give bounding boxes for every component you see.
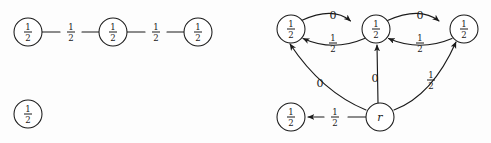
right-edge-R2-to-R3: [388, 13, 440, 21]
left-node-L4-label: 1 2: [24, 105, 32, 124]
right-node-R2-denominator: 2: [373, 30, 378, 39]
right-edge-r-to-R1: [290, 44, 366, 110]
right-node-R1-label: 1 2: [287, 20, 295, 39]
left-node-L3-denominator: 2: [195, 33, 200, 42]
left-node-L1-denominator: 2: [25, 33, 30, 42]
left-node-L2-denominator: 2: [110, 33, 115, 42]
left-edge-label-L1-L2-denominator: 2: [68, 33, 73, 42]
right-edge-R1-to-R2: [302, 13, 351, 21]
right-edge-label-r-to-R3-numerator: 1: [428, 71, 433, 80]
left-node-L3-numerator: 1: [195, 23, 200, 32]
left-edge-label-L1-L2-numerator: 1: [68, 23, 73, 32]
right-edge-label-r-to-R3: 1 2: [427, 71, 435, 90]
right-node-R4-numerator: 1: [288, 108, 293, 117]
left-node-L1-numerator: 1: [25, 23, 30, 32]
right-edge-label-R3-to-R2-denominator: 2: [417, 44, 422, 53]
right-node-R4-denominator: 2: [288, 118, 293, 127]
right-edge-label-r-to-R3-denominator: 2: [428, 81, 433, 90]
right-edge-label-r-to-R4-numerator: 1: [332, 108, 337, 117]
right-edge-label-r-to-R4: 1 2: [331, 108, 339, 127]
left-node-L2-numerator: 1: [110, 23, 115, 32]
left-node-L3-label: 1 2: [194, 23, 202, 42]
left-node-L4-denominator: 2: [25, 115, 30, 124]
right-edge-label-r-to-R2: 0: [372, 73, 379, 84]
left-node-L2-label: 1 2: [109, 23, 117, 42]
markov-chain-figure: 1 2 1 2 1 2 1 2 1 2 1 2 1 2 1 2 1: [0, 0, 491, 143]
right-node-R4-label: 1 2: [287, 108, 295, 127]
right-node-R2-label: 1 2: [372, 20, 380, 39]
left-node-L1-label: 1 2: [24, 23, 32, 42]
right-node-root-label: r: [377, 112, 382, 123]
left-edge-label-L1-L2: 1 2: [67, 23, 75, 42]
right-node-R3-denominator: 2: [461, 30, 466, 39]
right-edge-label-r-to-R1: 0: [317, 78, 324, 89]
right-edge-label-R2-to-R3: 0: [417, 10, 424, 21]
left-node-L4-numerator: 1: [25, 105, 30, 114]
right-edge-label-R3-to-R2: 1 2: [416, 34, 424, 53]
right-edge-r-to-R3: [394, 42, 456, 110]
right-edge-label-R2-to-R1-denominator: 2: [330, 44, 335, 53]
right-edge-label-r-to-R4-denominator: 2: [332, 118, 337, 127]
right-node-R3-label: 1 2: [460, 20, 468, 39]
left-edge-label-L2-L3: 1 2: [152, 23, 160, 42]
right-node-R1-denominator: 2: [288, 30, 293, 39]
right-node-R3-numerator: 1: [461, 20, 466, 29]
right-edge-label-R2-to-R1-numerator: 1: [330, 34, 335, 43]
right-edge-label-R2-to-R1: 1 2: [329, 34, 337, 53]
left-edge-label-L2-L3-denominator: 2: [153, 33, 158, 42]
right-node-R1-numerator: 1: [288, 20, 293, 29]
right-edge-label-R3-to-R2-numerator: 1: [417, 34, 422, 43]
right-node-R2-numerator: 1: [373, 20, 378, 29]
left-edge-label-L2-L3-numerator: 1: [153, 23, 158, 32]
right-edge-label-R1-to-R2: 0: [330, 10, 337, 21]
